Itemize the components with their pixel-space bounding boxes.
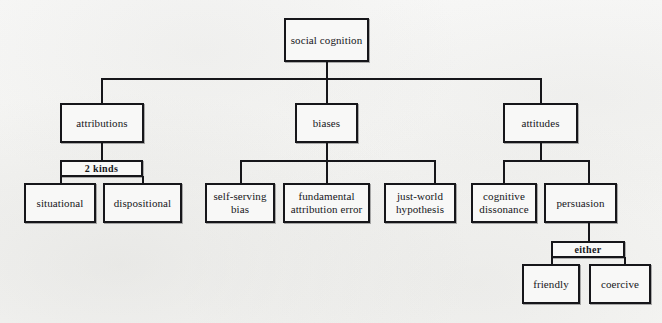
edge-drop-fundamental-attribution-error	[326, 160, 328, 184]
node-social-cognition[interactable]: social cognition	[284, 18, 369, 62]
node-dispositional[interactable]: dispositional	[103, 183, 182, 223]
edge-drop-self-serving-bias	[240, 160, 242, 184]
node-friendly-label: friendly	[533, 278, 569, 291]
node-either-label-box[interactable]: either	[551, 241, 625, 258]
node-coercive-label: coercive	[601, 278, 639, 291]
edge-biases-stem	[326, 142, 328, 161]
edge-drop-attributions	[101, 78, 103, 103]
node-attitudes-label: attitudes	[521, 117, 559, 130]
edge-level1-bus	[101, 78, 542, 80]
edge-drop-persuasion	[588, 160, 590, 184]
node-2-kinds-label: 2 kinds	[85, 163, 118, 175]
node-just-world-hypothesis[interactable]: just-world hypothesis	[384, 183, 456, 223]
node-just-world-hypothesis-label: just-world hypothesis	[396, 190, 444, 216]
node-fundamental-attribution-error-label: fundamental attribution error	[291, 190, 363, 216]
node-attributions-label: attributions	[76, 117, 127, 130]
edge-drop-just-world-hypothesis	[434, 160, 436, 184]
edge-biases-bus	[240, 160, 436, 162]
edge-attitudes-stem	[540, 142, 542, 161]
node-2-kinds-label-box[interactable]: 2 kinds	[60, 160, 143, 177]
node-social-cognition-label: social cognition	[291, 34, 363, 47]
node-attitudes[interactable]: attitudes	[503, 103, 578, 143]
social-cognition-tree-diagram: social cognition attributions biases att…	[0, 0, 662, 323]
node-situational[interactable]: situational	[24, 183, 96, 223]
edge-root-stem	[326, 62, 328, 79]
node-persuasion[interactable]: persuasion	[544, 183, 617, 223]
node-situational-label: situational	[37, 197, 84, 210]
node-coercive[interactable]: coercive	[589, 264, 651, 304]
node-persuasion-label: persuasion	[556, 197, 604, 210]
node-cognitive-dissonance-label: cognitive dissonance	[479, 190, 528, 216]
node-biases-label: biases	[313, 117, 340, 130]
edge-drop-cognitive-dissonance	[503, 160, 505, 184]
edge-drop-attitudes	[540, 78, 542, 103]
node-fundamental-attribution-error[interactable]: fundamental attribution error	[283, 183, 370, 223]
edge-persuasion-to-either	[588, 222, 590, 241]
node-attributions[interactable]: attributions	[60, 103, 144, 143]
node-dispositional-label: dispositional	[114, 197, 172, 210]
node-self-serving-bias[interactable]: self-serving bias	[205, 183, 275, 223]
node-friendly[interactable]: friendly	[522, 264, 580, 304]
node-cognitive-dissonance[interactable]: cognitive dissonance	[471, 183, 537, 223]
node-self-serving-bias-label: self-serving bias	[213, 190, 266, 216]
edge-attitudes-bus	[503, 160, 590, 162]
edge-attributions-to-2kinds	[101, 142, 103, 161]
edge-drop-biases	[326, 78, 328, 103]
node-biases[interactable]: biases	[295, 103, 358, 143]
node-either-label: either	[574, 244, 601, 256]
